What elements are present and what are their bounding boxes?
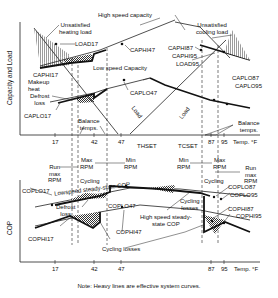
top-tick-42: 42: [91, 139, 98, 146]
top-tick-95: 95: [221, 139, 228, 146]
bottom-tick-95: 95: [221, 266, 228, 273]
caphi87-label: CAPHI87: [168, 45, 193, 52]
caphi95-label: CAPHI95: [172, 53, 197, 60]
capacity-cop-diagram: Capacity and Load COP High speed capacit…: [0, 0, 278, 298]
cycling-losses-bottom-label: Cycling losses: [102, 246, 140, 253]
run-max-rpm-right: Run max RPM: [244, 165, 257, 185]
run-max-rpm-left: Run max RPM: [48, 164, 61, 184]
balance-temps-left-label: Balance temps.: [78, 118, 100, 131]
high-speed-capacity-label: High speed capacity: [98, 12, 152, 19]
bottom-tick-42: 42: [91, 266, 98, 273]
tcset-marker: TCSET: [178, 143, 198, 150]
cophi17-label: COPHI17: [28, 236, 54, 243]
caplo95-label: CAPLO95: [235, 83, 262, 90]
makeup-heat-label: Makeup heat: [28, 79, 49, 92]
top-tick-87: 87: [208, 139, 215, 146]
cycling-right-label: Cycling: [204, 178, 224, 185]
max-rpm-right: Max RPM: [213, 157, 226, 170]
coplo17-label: COPLO17: [22, 188, 50, 195]
cophi87-label: COPHI87: [228, 206, 254, 213]
min-rpm-right: Min RPM: [177, 157, 190, 170]
thset-marker: THSET: [137, 143, 157, 150]
cophi47-label: COPHI47: [116, 229, 142, 236]
low-speed-capacity-label: Low speed Capacity: [93, 65, 147, 72]
bottom-tick-87: 87: [208, 266, 215, 273]
coplo47-label: COPLO47: [108, 203, 136, 210]
balance-temps-right-label: Balance temps.: [238, 120, 260, 133]
coplo95-label: COPLO95: [230, 192, 258, 199]
cophi95-label: COPHI95: [236, 213, 262, 220]
unsatisfied-heating-label: Unsatisfied heating load: [59, 22, 92, 35]
caplo17-label: CAPLO17: [24, 113, 51, 120]
defrost-loss-bottom-label: Defrost loss: [56, 204, 75, 217]
max-rpm-left: Max RPM: [80, 157, 93, 170]
bottom-tick-17: 17: [52, 266, 59, 273]
cycling-losses-right-label: Cycling losses: [180, 198, 200, 211]
caphi17-label: CAPHI17: [33, 72, 58, 79]
high-speed-cop-label: High speed steady- state COP: [140, 214, 192, 227]
top-tick-47: 47: [118, 139, 125, 146]
caphi47-label: CAPHI47: [130, 47, 155, 54]
bottom-x-axis-label: Temp. °F: [234, 266, 258, 273]
coplo87-label: COPLO87: [228, 184, 256, 191]
bottom-tick-47: 47: [118, 266, 125, 273]
figure-note: Note: Heavy lines are effective system c…: [0, 283, 278, 289]
load95-label: LOAD95: [176, 61, 199, 68]
unsatisfied-cooling-label: Unsatisfied cooling load: [196, 22, 228, 35]
caplo47-label: CAPLO47: [130, 90, 157, 97]
top-x-axis-label: Temp. °F: [233, 139, 257, 146]
defrost-loss-top-label: Defrost loss: [30, 93, 49, 106]
bottom-y-axis-label: COP: [6, 221, 13, 235]
top-y-axis-label: Capacity and Load: [6, 51, 13, 105]
caplo87-label: CAPLO87: [232, 75, 259, 82]
top-tick-17: 17: [52, 139, 59, 146]
min-rpm-left: Min RPM: [124, 157, 137, 170]
load17-label: LOAD17: [75, 41, 98, 48]
cycling-left-label: Cycling: [80, 178, 100, 185]
